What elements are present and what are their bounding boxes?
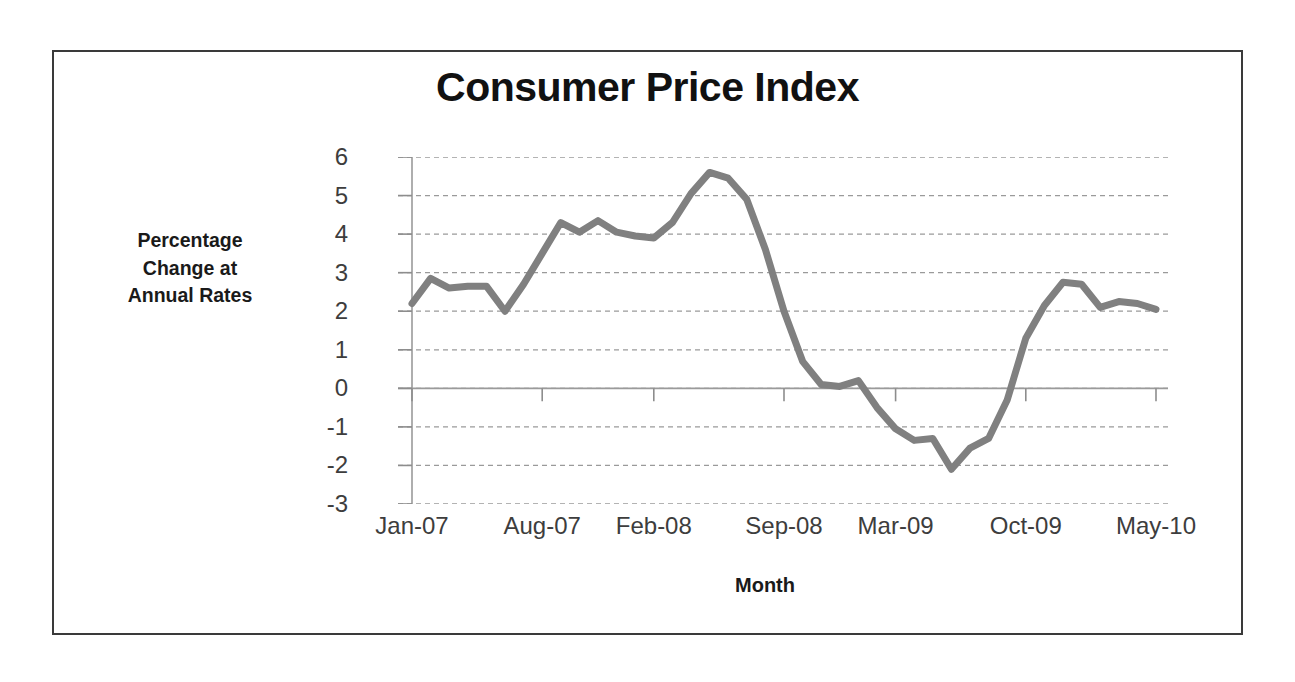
y-tick-label: -1 — [306, 413, 348, 441]
y-axis-title-line-3: Annual Rates — [90, 282, 290, 310]
y-tick-label: 1 — [306, 336, 348, 364]
y-axis-title-line-2: Change at — [90, 255, 290, 283]
data-series-line — [412, 172, 1156, 469]
y-axis-ticks — [398, 157, 412, 504]
y-tick-label: 2 — [306, 297, 348, 325]
y-tick-label: 6 — [306, 143, 348, 171]
x-tick-label: Oct-09 — [990, 512, 1062, 540]
x-tick-label: Feb-08 — [616, 512, 692, 540]
y-tick-label: 4 — [306, 220, 348, 248]
x-tick-label: Sep-08 — [745, 512, 822, 540]
chart-title: Consumer Price Index — [54, 64, 1241, 111]
gridlines — [398, 157, 1168, 504]
y-tick-label: -3 — [306, 490, 348, 518]
y-tick-label: 0 — [306, 374, 348, 402]
y-axis-title-line-1: Percentage — [90, 227, 290, 255]
x-axis-ticks — [412, 388, 1156, 401]
x-tick-label: Aug-07 — [503, 512, 580, 540]
y-tick-label: 5 — [306, 182, 348, 210]
y-tick-label: 3 — [306, 259, 348, 287]
x-tick-label: Jan-07 — [375, 512, 448, 540]
chart-frame: Consumer Price Index Percentage Change a… — [52, 50, 1243, 635]
y-tick-label: -2 — [306, 451, 348, 479]
line-chart-svg — [360, 157, 1168, 504]
plot-area — [360, 157, 1168, 504]
y-axis-title: Percentage Change at Annual Rates — [90, 227, 290, 310]
x-tick-label: Mar-09 — [858, 512, 934, 540]
x-tick-label: May-10 — [1116, 512, 1196, 540]
x-axis-title: Month — [360, 574, 1170, 597]
